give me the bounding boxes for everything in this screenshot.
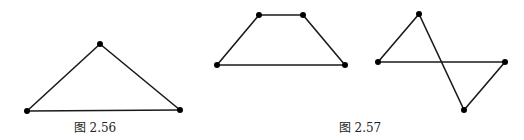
crossed-vertex-right — [502, 59, 508, 65]
figure-caption-2-56: 图 2.56 — [74, 121, 117, 135]
crossed-vertex-left — [375, 59, 381, 65]
figure-2-56: 图 2.56 — [24, 41, 183, 135]
crossed-edge-left-top — [378, 14, 419, 62]
triangle-vertex-apex — [97, 41, 103, 47]
figure-2-57: 图 2.57 — [214, 11, 508, 135]
trapezoid-shape — [214, 12, 348, 68]
triangle-edge-base — [27, 110, 180, 111]
diagram-canvas: 图 2.56 图 2.57 — [0, 0, 524, 140]
triangle-edge-left — [27, 44, 100, 111]
trapezoid-vertex-top-left — [256, 12, 262, 18]
crossed-edge-bottom-right — [464, 62, 505, 110]
trapezoid-vertex-bottom-right — [342, 62, 348, 68]
triangle-vertex-left — [24, 108, 30, 114]
crossed-vertex-bottom — [461, 107, 467, 113]
triangle-edge-right — [100, 44, 180, 110]
crossed-quadrilateral-shape — [375, 11, 508, 113]
trapezoid-edge-right — [303, 15, 345, 65]
triangle-shape — [24, 41, 183, 114]
crossed-vertex-top — [416, 11, 422, 17]
trapezoid-vertex-bottom-left — [214, 62, 220, 68]
trapezoid-vertex-top-right — [300, 12, 306, 18]
triangle-vertex-right — [177, 107, 183, 113]
trapezoid-edge-left — [217, 15, 259, 65]
figure-caption-2-57: 图 2.57 — [339, 121, 382, 135]
